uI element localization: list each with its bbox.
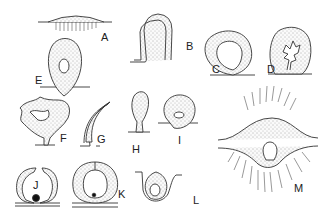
panel-a-drawing: [38, 16, 112, 31]
label-e: E: [35, 75, 42, 86]
label-j: J: [33, 180, 39, 191]
panel-h-drawing: [128, 92, 150, 132]
label-b: B: [186, 41, 193, 52]
panel-b-drawing: [130, 14, 172, 62]
label-m: M: [294, 183, 303, 194]
panel-i-drawing: [158, 95, 198, 128]
label-d: D: [267, 64, 275, 75]
label-i: I: [178, 135, 181, 146]
panel-k-drawing: [72, 162, 118, 207]
figure-canvas: [0, 0, 329, 218]
label-l: L: [193, 195, 199, 206]
label-g: G: [97, 134, 106, 145]
label-a: A: [101, 32, 108, 43]
label-h: H: [132, 144, 140, 155]
panel-e-drawing: [40, 39, 90, 97]
panel-l-drawing: [135, 172, 182, 201]
label-f: F: [60, 133, 67, 144]
panel-m-drawing: [218, 86, 318, 192]
label-c: C: [212, 64, 220, 75]
label-k: K: [118, 189, 125, 200]
